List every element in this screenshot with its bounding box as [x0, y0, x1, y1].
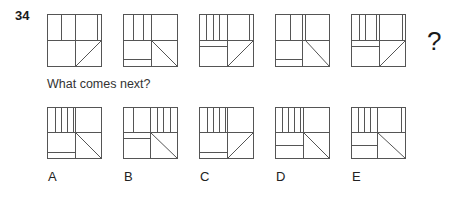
option-figure-e[interactable] [352, 108, 406, 159]
sequence-figure-3 [200, 15, 254, 67]
figure-line [228, 41, 254, 67]
sequence-figure-1 [48, 15, 102, 67]
sequence-figures [48, 15, 406, 67]
option-figure-b[interactable] [124, 108, 178, 159]
option-figure-c[interactable] [200, 108, 254, 159]
option-label-b[interactable]: B [124, 169, 133, 184]
figure-line [228, 133, 254, 159]
figure-line [76, 41, 102, 67]
option-label-c[interactable]: C [200, 169, 209, 184]
option-figure-d[interactable] [276, 108, 330, 159]
figure-line [380, 41, 406, 67]
sequence-figure-4 [276, 15, 330, 67]
figure-line [304, 133, 330, 159]
option-label-d[interactable]: D [276, 169, 285, 184]
option-label-a[interactable]: A [48, 169, 57, 184]
sequence-figure-5 [352, 15, 406, 67]
figure-line [378, 133, 406, 159]
figure-line [306, 41, 330, 67]
option-figure-a[interactable] [48, 108, 102, 159]
figure-line [76, 133, 102, 159]
figure-line [152, 41, 178, 67]
figure-line [151, 133, 178, 159]
option-label-e[interactable]: E [352, 169, 361, 184]
answer-option-figures[interactable] [48, 108, 406, 159]
sequence-figure-2 [124, 15, 178, 67]
figures-canvas [0, 0, 453, 198]
